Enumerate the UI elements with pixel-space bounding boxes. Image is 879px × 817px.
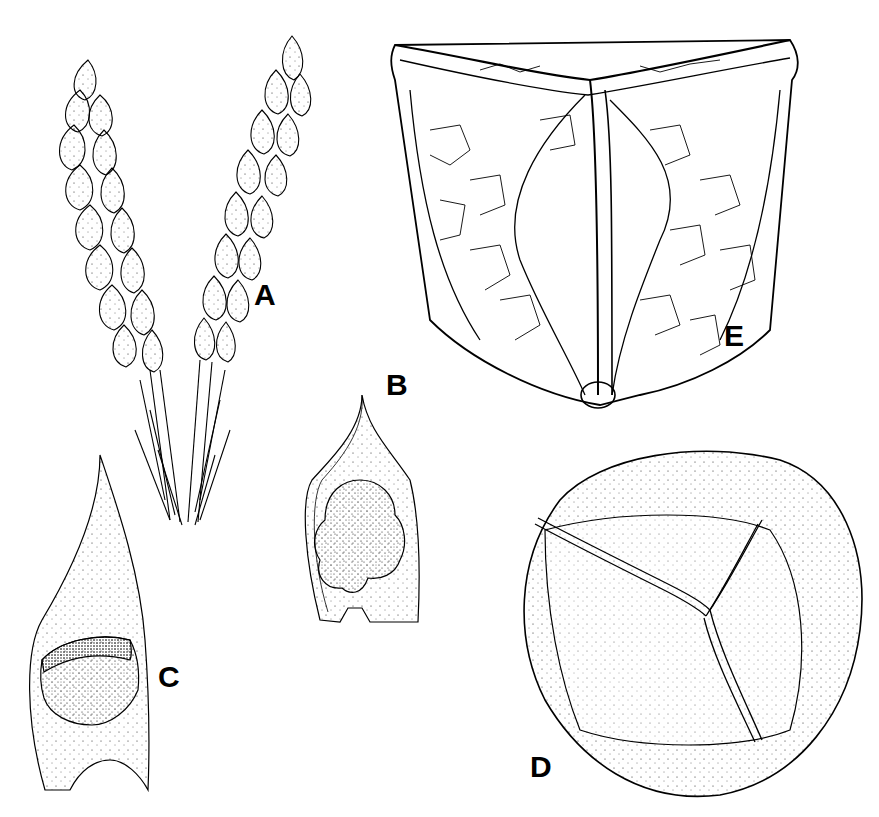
sporophyll-b-illustration — [305, 395, 419, 622]
panel-label-b: B — [386, 370, 408, 400]
panel-label-e: E — [724, 321, 744, 351]
panel-label-c: C — [158, 662, 180, 692]
spore-proximal-illustration — [524, 451, 862, 796]
spore-tetrahedral-illustration — [391, 40, 798, 408]
panel-label-a: A — [254, 280, 276, 310]
botanical-plate — [0, 0, 879, 817]
panel-label-d: D — [530, 752, 552, 782]
sporophyll-c-illustration — [30, 455, 149, 790]
